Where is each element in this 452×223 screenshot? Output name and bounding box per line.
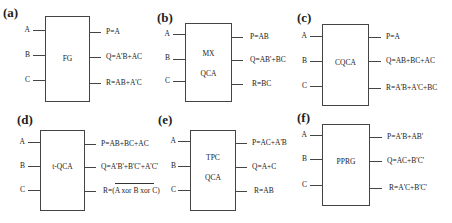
panel-label: (c) <box>297 10 311 26</box>
input-line-b <box>310 61 322 62</box>
output-p: P=A'B+AB' <box>387 132 423 141</box>
gate-box: TPC QCA <box>190 130 236 211</box>
input-label-b: B <box>166 161 176 170</box>
input-label-a: A <box>20 25 30 34</box>
input-line-c <box>33 80 45 81</box>
input-label-b: B <box>20 50 30 59</box>
output-line-p <box>369 37 381 38</box>
output-line-q <box>370 161 382 162</box>
input-label-a: A <box>166 136 176 145</box>
input-line-c <box>310 86 322 87</box>
output-line-p <box>236 143 247 144</box>
output-q: Q=A'B'+B'C'+A'C' <box>101 162 158 171</box>
panel-label: (e) <box>158 112 172 128</box>
output-q: Q=AC+B'C' <box>387 156 424 165</box>
input-line-b <box>33 55 45 56</box>
input-line-c <box>310 185 322 186</box>
input-line-b <box>310 159 322 160</box>
input-line-a <box>28 142 40 143</box>
input-label-b: B <box>15 161 25 170</box>
output-line-r <box>370 188 382 189</box>
output-line-p <box>232 37 243 38</box>
input-line-a <box>173 34 185 35</box>
output-r: R=AB+A'C <box>106 78 142 87</box>
output-r: R=AB <box>254 186 274 195</box>
output-q: Q=A+C <box>252 162 276 171</box>
input-line-b <box>173 59 185 60</box>
panel-label: (a) <box>3 5 18 21</box>
input-label-c: C <box>297 180 307 189</box>
gate-name-line1: TPC <box>191 153 235 162</box>
input-label-a: A <box>297 130 307 139</box>
output-r: R=A'B+A'C+BC <box>386 83 437 92</box>
output-line-r <box>232 84 243 85</box>
gate-name: t-QCA <box>41 162 84 171</box>
output-p: P=AB <box>250 32 269 41</box>
output-line-q <box>369 61 381 62</box>
output-r-overbar <box>115 183 154 184</box>
output-r: R=A'C+B'C' <box>389 183 427 192</box>
gate-name: FG <box>46 54 89 63</box>
input-label-c: C <box>15 185 25 194</box>
gate-name-line2: QCA <box>191 173 235 182</box>
input-label-b: B <box>160 53 170 62</box>
panel-label: (d) <box>17 112 33 128</box>
output-q: Q=AB+BC+AC <box>386 56 435 65</box>
input-line-c <box>173 81 185 82</box>
input-line-a <box>33 30 45 31</box>
gate-box: t-QCA <box>40 130 85 211</box>
output-line-r <box>90 83 101 84</box>
output-r: R=BC <box>252 79 271 88</box>
output-p: P=A <box>386 32 400 41</box>
gate-name: PPRG <box>323 157 369 166</box>
gate-name: CQCA <box>323 58 368 67</box>
input-line-c <box>178 190 190 191</box>
input-label-c: C <box>20 75 30 84</box>
input-label-c: C <box>166 185 176 194</box>
output-line-q <box>236 167 247 168</box>
input-label-b: B <box>297 154 307 163</box>
gate-box: PPRG <box>322 124 370 206</box>
output-line-r <box>236 191 247 192</box>
input-line-b <box>28 166 40 167</box>
gate-name-line2: QCA <box>186 69 231 78</box>
output-p: P=A <box>106 27 120 36</box>
gate-box: CQCA <box>322 24 369 106</box>
output-line-r <box>85 191 96 192</box>
output-q: Q=AB'+BC <box>250 55 286 64</box>
output-line-p <box>90 32 101 33</box>
input-line-a <box>310 135 322 136</box>
output-line-q <box>85 167 96 168</box>
panel-label: (b) <box>157 10 173 26</box>
gate-box: MX QCA <box>185 23 232 102</box>
input-label-b: B <box>297 56 307 65</box>
input-label-a: A <box>15 137 25 146</box>
input-label-c: C <box>160 76 170 85</box>
gate-name-line1: MX <box>186 49 231 58</box>
output-line-r <box>369 88 381 89</box>
input-label-c: C <box>297 81 307 90</box>
output-p: P=AC+A'B <box>252 138 287 147</box>
output-line-q <box>90 57 101 58</box>
output-p: P=AB+BC+AC <box>101 139 149 148</box>
panel-label: (f) <box>297 110 310 126</box>
input-line-a <box>178 141 190 142</box>
output-r: R=(A xor B xor C) <box>103 186 160 195</box>
input-line-c <box>28 190 40 191</box>
input-label-a: A <box>297 31 307 40</box>
output-line-p <box>370 137 382 138</box>
input-label-a: A <box>160 29 170 38</box>
output-line-q <box>232 60 243 61</box>
input-line-b <box>178 166 190 167</box>
gate-box: FG <box>45 16 90 102</box>
output-q: Q=A'B+AC <box>106 52 142 61</box>
input-line-a <box>310 36 322 37</box>
output-line-p <box>85 144 96 145</box>
